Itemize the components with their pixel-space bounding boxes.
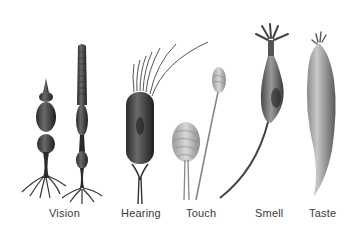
sensory-cells-figure: Vision Hearing Touch Smell Taste — [0, 0, 358, 230]
hearing-cell-illustration — [126, 42, 208, 204]
taste-cell-illustration — [307, 32, 336, 196]
label-smell: Smell — [255, 207, 284, 219]
vision-cell-right-illustration — [62, 44, 102, 204]
label-hearing: Hearing — [121, 207, 161, 219]
label-touch: Touch — [186, 207, 216, 219]
label-taste: Taste — [309, 207, 336, 219]
label-vision: Vision — [49, 207, 80, 219]
smell-cell-illustration — [220, 24, 288, 198]
vision-cell-left-illustration — [22, 78, 66, 198]
touch-cell-illustration — [172, 67, 226, 200]
